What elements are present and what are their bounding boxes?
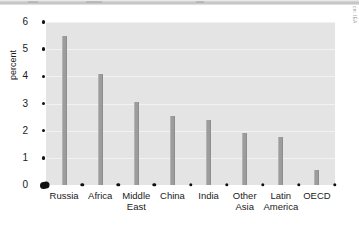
x-axis-tick-label: Other Asia xyxy=(233,190,257,212)
x-axis-tick-label: OECD xyxy=(303,190,330,201)
x-axis-tick-label: Middle East xyxy=(122,190,150,212)
x-axis-tick-label: Latin America xyxy=(263,190,298,212)
x-axis-tick-label: China xyxy=(160,190,185,201)
chart-figure: ce: IEA percent 0123456 RussiaAfricaMidd… xyxy=(0,0,359,230)
x-axis-tick-label: Russia xyxy=(50,190,79,201)
x-axis-labels: RussiaAfricaMiddle EastChinaIndiaOther A… xyxy=(0,0,359,230)
x-axis-tick-label: Africa xyxy=(88,190,112,201)
x-axis-tick-label: India xyxy=(198,190,219,201)
